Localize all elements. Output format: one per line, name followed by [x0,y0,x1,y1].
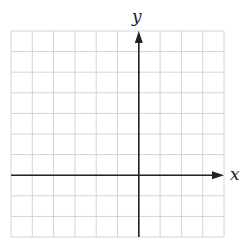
y-axis-arrow-icon [135,31,143,43]
y-axis-label: y [131,6,142,26]
coordinate-plane: x y [0,0,246,246]
grid-lines [11,31,224,237]
x-axis-arrow-icon [212,171,224,179]
x-axis-label: x [230,164,240,184]
